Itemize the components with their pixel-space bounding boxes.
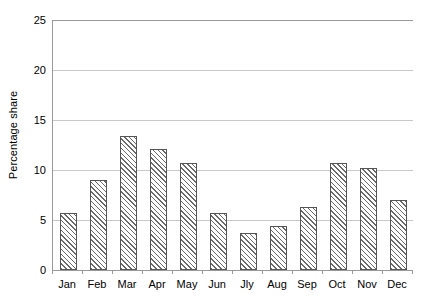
bar-chart: Percentage share 0510152025 JanFebMarApr… <box>0 0 425 306</box>
y-axis-tick-labels: 0510152025 <box>26 0 50 306</box>
y-axis-tick-label: 0 <box>40 264 46 276</box>
bar <box>90 180 107 270</box>
x-axis-tick <box>202 270 203 274</box>
x-axis-tick <box>82 270 83 274</box>
bar <box>180 163 197 270</box>
x-axis-tick-label: Dec <box>387 278 407 290</box>
bar <box>390 200 407 270</box>
x-axis-tick-labels: JanFebMarAprMayJunJlyAugSepOctNovDec <box>52 278 412 298</box>
x-axis-tick-label: Jly <box>240 278 253 290</box>
x-axis-tick <box>172 270 173 274</box>
y-axis-tick-label: 25 <box>34 14 46 26</box>
bar <box>300 207 317 270</box>
x-axis-tick <box>382 270 383 274</box>
x-axis-tick-label: Jun <box>208 278 226 290</box>
bar <box>60 213 77 270</box>
bar <box>150 149 167 270</box>
x-axis-ticks <box>52 270 413 275</box>
x-axis-tick-label: Sep <box>297 278 317 290</box>
y-axis-tick-label: 20 <box>34 64 46 76</box>
y-axis-tick-label: 5 <box>40 214 46 226</box>
x-axis-tick <box>292 270 293 274</box>
plot-area <box>52 20 413 271</box>
x-axis-tick-label: Aug <box>267 278 287 290</box>
bar <box>210 213 227 270</box>
x-axis-tick-label: May <box>177 278 198 290</box>
bars-group <box>53 20 413 270</box>
bar <box>120 136 137 270</box>
x-axis-tick <box>262 270 263 274</box>
bar <box>270 226 287 270</box>
x-axis-tick-label: Feb <box>88 278 107 290</box>
x-axis-tick <box>52 270 53 274</box>
x-axis-tick <box>322 270 323 274</box>
y-axis-title: Percentage share <box>0 0 26 270</box>
bar <box>330 163 347 270</box>
y-axis-title-text: Percentage share <box>7 91 19 179</box>
x-axis-tick <box>112 270 113 274</box>
y-axis-tick-label: 15 <box>34 114 46 126</box>
x-axis-tick-label: Nov <box>357 278 377 290</box>
x-axis-tick <box>412 270 413 274</box>
x-axis-tick-label: Mar <box>118 278 137 290</box>
x-axis-tick-label: Oct <box>328 278 345 290</box>
x-axis-tick <box>352 270 353 274</box>
x-axis-tick-label: Jan <box>58 278 76 290</box>
x-axis-tick <box>232 270 233 274</box>
bar <box>360 168 377 270</box>
x-axis-tick-label: Apr <box>148 278 165 290</box>
x-axis-tick <box>142 270 143 274</box>
y-axis-tick-label: 10 <box>34 164 46 176</box>
bar <box>240 233 257 270</box>
